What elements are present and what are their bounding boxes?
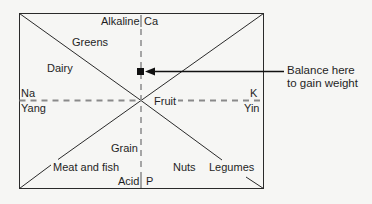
- label-ca: Ca: [144, 15, 158, 27]
- diagonal-line-bottom-right: [141, 101, 222, 161]
- callout-line-1: Balance here: [287, 64, 358, 77]
- label-fruit: Fruit: [152, 95, 178, 107]
- label-legumes: Legumes: [209, 161, 254, 173]
- diagonal-line-top-right: [141, 14, 264, 101]
- label-yang: Yang: [21, 102, 46, 114]
- label-p: P: [146, 175, 153, 187]
- diagram-canvas: [0, 0, 372, 204]
- callout-text: Balance here to gain weight: [287, 64, 358, 90]
- label-k: K: [250, 87, 257, 99]
- diagonal-line-bottom-right-outer: [246, 177, 264, 189]
- callout-line-2: to gain weight: [287, 77, 358, 90]
- label-alkaline: Alkaline: [101, 15, 140, 27]
- label-yin: Yin: [244, 102, 260, 114]
- label-meat-and-fish: Meat and fish: [53, 161, 119, 173]
- label-nuts: Nuts: [173, 161, 196, 173]
- arrow-head-icon: [145, 68, 155, 76]
- diagonal-line-bottom-left-outer: [20, 165, 52, 189]
- label-grain: Grain: [111, 142, 138, 154]
- label-greens: Greens: [72, 36, 108, 48]
- label-na: Na: [21, 87, 35, 99]
- diagonal-line-top-left-inner: [97, 69, 141, 101]
- label-acid: Acid: [118, 175, 139, 187]
- label-dairy: Dairy: [47, 62, 73, 74]
- balance-marker-square: [137, 68, 144, 75]
